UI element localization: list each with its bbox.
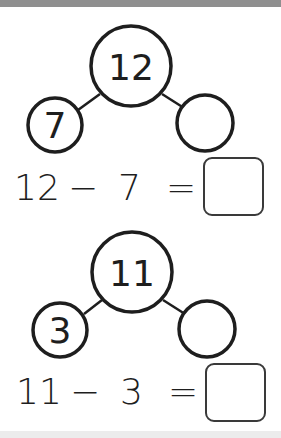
part-circle-unknown[interactable] <box>177 95 233 151</box>
equals-sign: = <box>168 374 198 410</box>
answer-box-1[interactable] <box>203 157 264 216</box>
whole-value: 12 <box>108 47 154 88</box>
bottom-bar <box>0 431 281 438</box>
minus-sign: − <box>70 374 100 410</box>
equation-right-operand: 3 <box>120 374 143 410</box>
number-bond-2: 11 3 <box>33 232 235 357</box>
equation-left-operand: 11 <box>16 374 62 410</box>
equals-sign: = <box>166 170 196 206</box>
part-known-value: 3 <box>49 310 72 351</box>
bond-line-left <box>78 94 100 110</box>
equation-left-operand: 12 <box>14 170 60 206</box>
answer-box-2[interactable] <box>205 363 266 422</box>
minus-sign: − <box>68 170 98 206</box>
bond-line-right <box>163 300 185 314</box>
part-known-value: 7 <box>44 105 67 146</box>
number-bond-1: 12 7 <box>28 26 233 152</box>
bond-line-left <box>84 300 102 314</box>
part-circle-unknown[interactable] <box>179 301 235 357</box>
equation-right-operand: 7 <box>118 170 141 206</box>
whole-value: 11 <box>109 253 155 294</box>
